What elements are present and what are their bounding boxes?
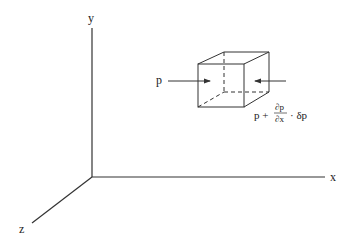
formula-base: p + <box>254 109 268 121</box>
fluid-element-cube <box>198 52 269 107</box>
force-arrows: p <box>156 73 286 87</box>
cube-depth-top-right <box>244 52 269 64</box>
diagram-canvas: y x z p p + ∂p ∂x · δp <box>0 0 352 246</box>
y-axis-label: y <box>88 11 94 25</box>
cube-hidden-edge-depth <box>198 92 224 107</box>
right-pressure-formula: p + ∂p ∂x · δp <box>254 102 308 124</box>
z-axis <box>32 177 92 223</box>
x-axis-label: x <box>330 170 336 184</box>
axes: y x z <box>19 11 336 236</box>
cube-depth-bottom-right <box>244 92 269 107</box>
formula-numerator: ∂p <box>275 102 284 112</box>
cube-depth-top-left <box>198 52 224 64</box>
left-pressure-label: p <box>156 73 162 87</box>
z-axis-label: z <box>19 222 24 236</box>
cube-front-face <box>198 64 244 107</box>
formula-tail: · δp <box>290 109 308 121</box>
formula-denominator: ∂x <box>275 114 284 124</box>
